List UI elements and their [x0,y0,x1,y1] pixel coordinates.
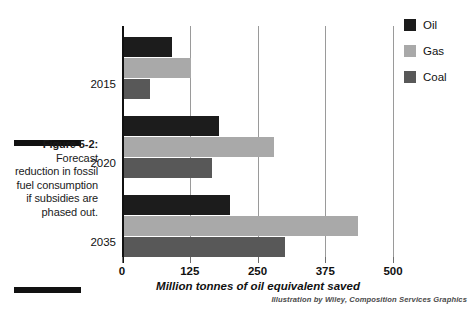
legend-swatch-gas [404,45,416,57]
plot-area [122,26,394,263]
tick-label-375: 375 [316,265,335,277]
bar-2015-oil [124,37,173,57]
bar-2035-gas [124,216,359,236]
legend-swatch-coal [404,71,416,83]
category-label-2035: 2035 [76,236,116,248]
tick-mark-0 [122,257,123,263]
gridline-500 [393,26,394,263]
bar-2035-oil [124,195,231,215]
category-label-2020: 2020 [76,157,116,169]
chart-legend: Oil Gas Coal [404,17,470,95]
tick-mark-500 [393,257,394,263]
bar-2020-oil [124,116,220,136]
tick-label-0: 0 [119,265,125,277]
x-axis-title: Million tonnes of oil equivalent saved [122,280,394,292]
tick-label-500: 500 [383,265,402,277]
tick-mark-125 [190,257,191,263]
bar-2020-coal [124,158,213,178]
bar-2035-coal [124,237,285,257]
legend-item-coal: Coal [404,69,470,87]
legend-label-coal: Coal [423,70,447,84]
bar-2020-gas [124,137,275,157]
tick-label-250: 250 [248,265,267,277]
legend-swatch-oil [404,19,416,31]
tick-mark-250 [258,257,259,263]
tick-mark-375 [325,257,326,263]
bar-2015-coal [124,79,150,99]
category-axis-labels: 2015 2020 2035 [72,26,116,263]
legend-item-oil: Oil [404,17,470,35]
figure-root: Figure 5-2: Forecast reduction in fossil… [0,0,475,316]
category-label-2015: 2015 [76,78,116,90]
legend-label-gas: Gas [423,44,444,58]
attribution-text: Illustration by Wiley, Composition Servi… [271,295,467,304]
bar-2015-gas [124,58,192,78]
legend-item-gas: Gas [404,43,470,61]
caption-rule-bottom [14,287,81,293]
tick-label-125: 125 [180,265,199,277]
legend-label-oil: Oil [423,18,437,32]
x-axis-tick-labels: 0 125 250 375 500 [122,265,412,281]
